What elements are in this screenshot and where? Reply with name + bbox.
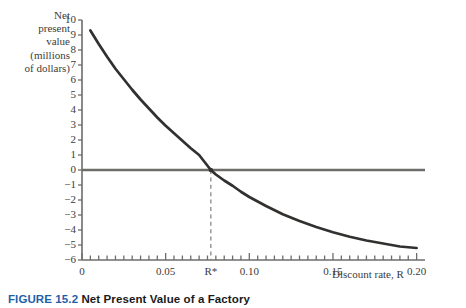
axis-lines — [78, 20, 425, 260]
y-tick-label: 4 — [52, 103, 76, 115]
x-tick-label: 0.05 — [141, 265, 191, 277]
y-tick-label: 5 — [52, 88, 76, 100]
y-tick-label: 2 — [52, 133, 76, 145]
y-tick-label: 3 — [52, 118, 76, 130]
rstar-intersection-marker — [209, 168, 213, 172]
y-tick-label: 6 — [52, 73, 76, 85]
y-tick-label: 7 — [52, 58, 76, 70]
x-tick-label: 0.10 — [224, 265, 274, 277]
y-tick-label: −2 — [52, 193, 76, 205]
x-tick-label: 0 — [57, 265, 107, 277]
figure-caption-number: FIGURE 15.2 — [8, 293, 78, 305]
y-tick-label: 8 — [52, 43, 76, 55]
figure-caption: FIGURE 15.2 Net Present Value of a Facto… — [8, 293, 458, 305]
npv-curve — [90, 31, 416, 249]
y-tick-label: 0 — [52, 163, 76, 175]
figure-container: Net present value (millions of dollars) … — [0, 0, 466, 308]
y-tick-label: −6 — [52, 253, 76, 265]
y-tick-label: −1 — [52, 178, 76, 190]
y-tick-label: −5 — [52, 238, 76, 250]
figure-caption-text: Net Present Value of a Factory — [81, 293, 250, 305]
y-tick-label: 9 — [52, 28, 76, 40]
y-tick-label: −3 — [52, 208, 76, 220]
y-tick-label: 1 — [52, 148, 76, 160]
y-tick-label: −4 — [52, 223, 76, 235]
y-tick-label: 10 — [52, 13, 76, 25]
x-axis-title: Discount rate, R — [332, 268, 404, 280]
